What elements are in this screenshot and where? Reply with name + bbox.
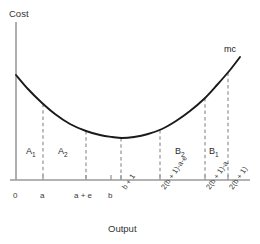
mc-curve-label: mc: [224, 44, 236, 54]
y-axis-title: Cost: [9, 8, 29, 19]
marginal-cost-figure: Cost Output mc A1A2B2B1 0aa + ebb + 12(b…: [0, 0, 260, 244]
region-label-subscript: 1: [215, 151, 219, 158]
region-label-a2: A2: [58, 146, 68, 158]
region-label-subscript: 2: [64, 151, 68, 158]
x-tick-label-a-plus-e: a + e: [74, 191, 92, 200]
region-label-subscript: 1: [32, 151, 36, 158]
dashed-dropline-group: [43, 72, 228, 180]
x-axis-title: Output: [108, 223, 137, 234]
marginal-cost-curve: [16, 57, 240, 138]
plot-canvas: [0, 0, 260, 244]
region-label-a1: A1: [26, 146, 36, 158]
region-label-b1: B1: [209, 146, 219, 158]
x-tick-label-origin: 0: [13, 191, 17, 200]
x-tick-label-b: b: [108, 191, 112, 200]
x-tick-label-a: a: [40, 191, 44, 200]
